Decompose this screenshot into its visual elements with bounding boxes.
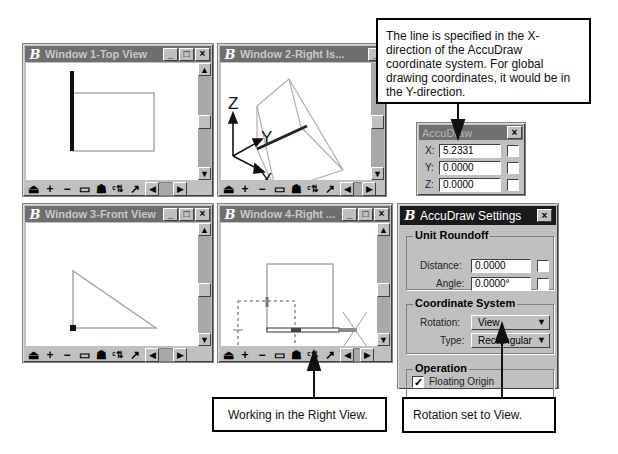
scroll-right-icon[interactable]: ▶ [173, 182, 187, 196]
scroll-thumb[interactable] [198, 283, 211, 297]
scroll-thumb[interactable] [198, 115, 211, 129]
angle-checkbox[interactable] [537, 278, 549, 290]
accudraw-titlebar[interactable]: AccuDraw × [419, 125, 523, 140]
window-area-icon[interactable]: ▭ [272, 348, 286, 362]
scroll-down-icon[interactable]: ▼ [377, 333, 390, 346]
y-lock-checkbox[interactable] [507, 162, 519, 174]
window-1-titlebar[interactable]: B Window 1-Top View _ □ × [25, 46, 211, 62]
distance-field[interactable]: 0.0000 [471, 259, 531, 273]
update-view-icon[interactable]: ⏏ [221, 182, 235, 196]
window-4-right-view[interactable]: B Window 4-Right ... _ □ × ▲ ▼ ⏏ + − ▭ ☗… [217, 203, 393, 363]
scroll-right-icon[interactable]: ▶ [362, 182, 376, 196]
zoom-in-icon[interactable]: + [238, 182, 252, 196]
type-dropdown[interactable]: Rectangular ▼ [471, 333, 550, 348]
window-1-top-view[interactable]: B Window 1-Top View _ □ × ▲ ▼ ⏏ + − ▭ ☗ … [22, 43, 214, 197]
close-button[interactable]: × [537, 209, 552, 222]
window-1-horizontal-scrollbar[interactable]: ◀ ▶ [145, 182, 187, 196]
window-area-icon[interactable]: ▭ [77, 348, 91, 362]
rotate-view-icon[interactable]: ᶜ⇅ [111, 348, 125, 362]
update-view-icon[interactable]: ⏏ [26, 348, 40, 362]
microstation-logo-icon: B [222, 47, 238, 61]
scroll-right-icon[interactable]: ▶ [173, 348, 187, 362]
window-3-horizontal-scrollbar[interactable]: ◀ ▶ [145, 348, 187, 362]
scroll-left-icon[interactable]: ◀ [340, 348, 354, 362]
window-2-right-isometric[interactable]: B Window 2-Right Is... _ Z Y [217, 43, 387, 197]
window-3-titlebar[interactable]: B Window 3-Front View _ □ × [25, 206, 211, 222]
minimize-button[interactable]: _ [342, 208, 357, 221]
scroll-track[interactable] [354, 182, 362, 196]
window-area-icon[interactable]: ▭ [77, 182, 91, 196]
scroll-left-icon[interactable]: ◀ [340, 182, 354, 196]
minimize-button[interactable]: _ [163, 48, 178, 61]
pan-view-icon[interactable]: ↗ [323, 182, 337, 196]
window-area-icon[interactable]: ▭ [272, 182, 286, 196]
scroll-up-icon[interactable]: ▲ [198, 63, 211, 76]
update-view-icon[interactable]: ⏏ [26, 182, 40, 196]
accudraw-panel[interactable]: AccuDraw × X: 5.2331 Y: 0.0000 Z: 0.0000 [416, 122, 526, 196]
chevron-down-icon: ▼ [537, 334, 546, 347]
x-axis-label: X [261, 170, 272, 180]
close-button[interactable]: × [195, 48, 210, 61]
floating-origin-checkbox[interactable]: ✓ [412, 376, 424, 388]
close-button[interactable]: × [507, 126, 522, 139]
window-4-titlebar[interactable]: B Window 4-Right ... _ □ × [220, 206, 390, 222]
window-3-front-view[interactable]: B Window 3-Front View _ □ × ▲ ▼ ⏏ + − ▭ … [22, 203, 214, 363]
zoom-out-icon[interactable]: − [60, 182, 74, 196]
update-view-icon[interactable]: ⏏ [221, 348, 235, 362]
maximize-button[interactable]: □ [179, 48, 194, 61]
window-4-horizontal-scrollbar[interactable]: ◀ ▶ [340, 348, 374, 362]
fit-view-icon[interactable]: ☗ [289, 348, 303, 362]
settings-titlebar[interactable]: B AccuDraw Settings × [400, 206, 556, 225]
window-4-vertical-scrollbar[interactable]: ▲ ▼ [377, 223, 390, 346]
window-3-vertical-scrollbar[interactable]: ▲ ▼ [198, 223, 211, 346]
rotate-view-icon[interactable]: ᶜ⇅ [111, 182, 125, 196]
fit-view-icon[interactable]: ☗ [94, 348, 108, 362]
window-2-horizontal-scrollbar[interactable]: ◀ ▶ [340, 182, 376, 196]
zoom-in-icon[interactable]: + [43, 182, 57, 196]
scroll-up-icon[interactable]: ▲ [198, 223, 211, 236]
scroll-left-icon[interactable]: ◀ [145, 182, 159, 196]
scroll-left-icon[interactable]: ◀ [145, 348, 159, 362]
angle-field[interactable]: 0.0000° [471, 277, 531, 291]
maximize-button[interactable]: □ [358, 208, 373, 221]
zoom-in-icon[interactable]: + [238, 348, 252, 362]
scroll-down-icon[interactable]: ▼ [371, 167, 384, 180]
maximize-button[interactable]: □ [179, 208, 194, 221]
scroll-track[interactable] [159, 348, 173, 362]
z-field[interactable]: 0.0000 [439, 178, 501, 192]
x-lock-checkbox[interactable] [507, 145, 519, 157]
scroll-down-icon[interactable]: ▼ [198, 167, 211, 180]
fit-view-icon[interactable]: ☗ [94, 182, 108, 196]
scroll-thumb[interactable] [371, 115, 384, 129]
accudraw-settings-dialog[interactable]: B AccuDraw Settings × Unit Roundoff D Di… [397, 203, 559, 389]
scroll-up-icon[interactable]: ▲ [377, 223, 390, 236]
fit-view-icon[interactable]: ☗ [289, 182, 303, 196]
zoom-out-icon[interactable]: − [255, 182, 269, 196]
close-button[interactable]: × [195, 208, 210, 221]
rotation-dropdown[interactable]: View ▼ [471, 315, 550, 330]
pan-view-icon[interactable]: ↗ [323, 348, 337, 362]
zoom-in-icon[interactable]: + [43, 348, 57, 362]
y-field[interactable]: 0.0000 [439, 161, 501, 175]
scroll-track[interactable] [159, 182, 173, 196]
window-1-viewport[interactable] [26, 63, 198, 180]
rotate-view-icon[interactable]: ᶜ⇅ [306, 348, 320, 362]
window-4-viewport[interactable] [221, 223, 377, 346]
window-2-titlebar[interactable]: B Window 2-Right Is... _ [220, 46, 384, 62]
zoom-out-icon[interactable]: − [60, 348, 74, 362]
distance-checkbox[interactable] [537, 260, 549, 272]
window-1-vertical-scrollbar[interactable]: ▲ ▼ [198, 63, 211, 180]
x-field[interactable]: 5.2331 [439, 144, 501, 158]
rotate-view-icon[interactable]: ᶜ⇅ [306, 182, 320, 196]
close-button[interactable]: × [374, 208, 389, 221]
window-3-viewport[interactable] [26, 223, 198, 346]
scroll-thumb[interactable] [377, 283, 390, 297]
zoom-out-icon[interactable]: − [255, 348, 269, 362]
z-lock-checkbox[interactable] [507, 179, 519, 191]
pan-view-icon[interactable]: ↗ [128, 182, 142, 196]
minimize-button[interactable]: _ [163, 208, 178, 221]
scroll-down-icon[interactable]: ▼ [198, 333, 211, 346]
window-2-viewport[interactable]: Z Y X [221, 63, 371, 180]
pan-view-icon[interactable]: ↗ [128, 348, 142, 362]
scroll-right-icon[interactable]: ▶ [360, 348, 374, 362]
